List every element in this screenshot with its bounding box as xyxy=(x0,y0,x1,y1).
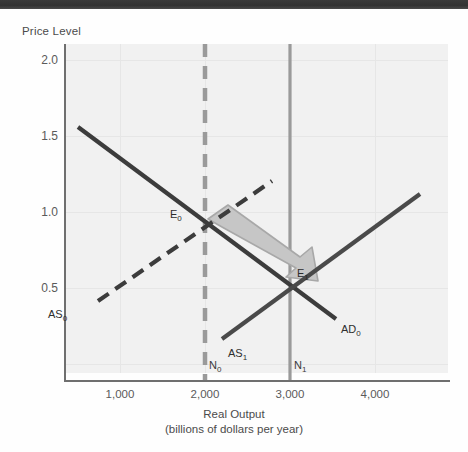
x-axis-caption: Real Output (billions of dollars per yea… xyxy=(0,407,468,437)
economics-figure: Price Level 2.0 1.5 1.0 0.5 1,000 2,000 … xyxy=(0,9,468,452)
point-label-e1: E1 xyxy=(297,267,309,282)
curves-layer xyxy=(0,9,468,452)
x-axis-subtitle: (billions of dollars per year) xyxy=(0,422,468,437)
point-label-e0: E0 xyxy=(170,208,182,223)
axis-label-n0: N0 xyxy=(209,359,221,374)
curve-label-ad0: AD0 xyxy=(341,323,361,338)
axis-label-n1: N1 xyxy=(294,359,306,374)
top-dark-bar xyxy=(0,0,468,9)
curve-label-as1: AS1 xyxy=(228,347,247,362)
x-axis-title: Real Output xyxy=(0,407,468,422)
curve-label-as0: AS0 xyxy=(48,308,67,323)
curve-as1 xyxy=(222,194,420,339)
